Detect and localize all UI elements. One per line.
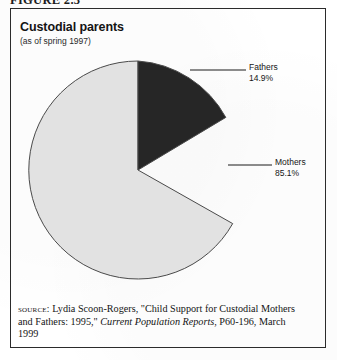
source-label: source:	[18, 304, 50, 314]
slice-label-mothers: Mothers 85.1%	[275, 157, 306, 179]
slice-label-fathers-percent: 14.9%	[249, 73, 278, 84]
pie-chart-svg	[0, 0, 337, 300]
source-publication-title: Current Population Reports	[100, 316, 214, 327]
slice-label-fathers: Fathers 14.9%	[249, 62, 278, 84]
pie-chart	[0, 0, 337, 300]
slice-label-mothers-name: Mothers	[275, 157, 306, 167]
slice-label-fathers-name: Fathers	[249, 62, 278, 72]
pie-slice-fathers[interactable]	[138, 61, 226, 170]
slice-label-mothers-percent: 85.1%	[275, 168, 306, 179]
figure-page: FIGURE 2.3 Custodial parents (as of spri…	[0, 0, 337, 360]
source-note: source: Lydia Scoon-Rogers, "Child Suppo…	[18, 303, 308, 341]
